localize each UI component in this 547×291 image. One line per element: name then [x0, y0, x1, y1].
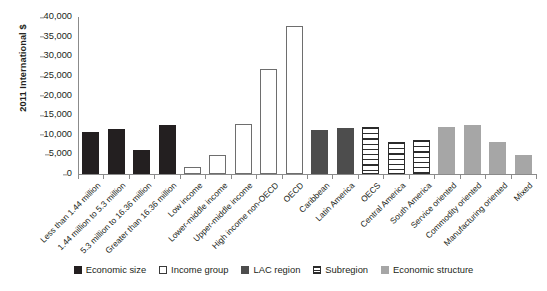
x-axis-tick-mark — [511, 175, 512, 179]
bar-slot — [231, 17, 256, 174]
bar[interactable] — [108, 129, 125, 174]
legend-label: Economic size — [86, 264, 146, 275]
y-axis-tick-label: 35,000 — [44, 32, 78, 41]
legend-label: Economic structure — [393, 264, 473, 275]
y-axis-tick-mark — [40, 56, 44, 57]
bar-slot — [409, 17, 434, 174]
legend-label: Subregion — [325, 264, 368, 275]
bar[interactable] — [235, 124, 252, 174]
bar[interactable] — [362, 127, 379, 174]
bar-slot — [129, 17, 154, 174]
legend-swatch-icon — [74, 266, 82, 274]
legend-item[interactable]: Economic structure — [381, 264, 473, 275]
bar-slot — [434, 17, 459, 174]
y-axis-tick-mark — [40, 115, 44, 116]
x-axis-tick-mark — [180, 175, 181, 179]
bar-slot — [154, 17, 179, 174]
bar-slot — [460, 17, 485, 174]
x-axis-tick-mark — [231, 175, 232, 179]
bar-slot — [307, 17, 332, 174]
y-axis-title: 2011 International $ — [18, 0, 28, 138]
x-axis-tick-mark — [358, 175, 359, 179]
x-axis-tick-mark — [409, 175, 410, 179]
legend-item[interactable]: LAC region — [241, 264, 300, 275]
x-axis-tick-mark — [383, 175, 384, 179]
bar-slot — [485, 17, 510, 174]
legend-item[interactable]: Economic size — [74, 264, 146, 275]
legend-item[interactable]: Income group — [159, 264, 228, 275]
y-axis-tick-label: 0 — [67, 169, 78, 178]
legend-swatch-icon — [241, 266, 249, 274]
chart-legend: Economic sizeIncome groupLAC regionSubre… — [0, 264, 547, 275]
bar-slot — [511, 17, 536, 174]
bar[interactable] — [260, 69, 277, 174]
bar[interactable] — [82, 132, 99, 174]
bar-slot — [180, 17, 205, 174]
legend-swatch-icon — [381, 266, 389, 274]
x-axis-tick-mark — [154, 175, 155, 179]
bar[interactable] — [489, 142, 506, 174]
bar[interactable] — [438, 127, 455, 174]
y-axis-tick-label: 25,000 — [44, 71, 78, 80]
bar[interactable] — [159, 125, 176, 174]
x-axis-tick-mark — [536, 175, 537, 179]
y-axis-tick-mark — [40, 37, 44, 38]
bar-slot — [78, 17, 103, 174]
bar-slot — [332, 17, 357, 174]
legend-item[interactable]: Subregion — [313, 264, 368, 275]
y-axis-tick-mark — [40, 135, 44, 136]
bar[interactable] — [184, 167, 201, 174]
bar-slot — [103, 17, 128, 174]
bar-slot — [358, 17, 383, 174]
bar[interactable] — [311, 130, 328, 174]
x-axis-tick-mark — [205, 175, 206, 179]
x-axis-tick-mark — [103, 175, 104, 179]
plot-area: 40,00035,00030,00025,00020,00015,00010,0… — [78, 17, 536, 174]
y-axis-tick-label: 20,000 — [44, 91, 78, 100]
x-axis-tick-mark — [460, 175, 461, 179]
y-axis-tick-mark — [40, 17, 44, 18]
bar[interactable] — [209, 155, 226, 174]
legend-label: LAC region — [253, 264, 300, 275]
y-axis-tick-mark — [45, 154, 49, 155]
bar-chart: 2011 International $ 40,00035,00030,0002… — [0, 0, 547, 291]
bar[interactable] — [515, 155, 532, 174]
y-axis-tick-mark — [40, 76, 44, 77]
x-axis-tick-mark — [282, 175, 283, 179]
y-axis-tick-label: 30,000 — [44, 52, 78, 61]
x-axis-tick-mark — [256, 175, 257, 179]
bar[interactable] — [337, 128, 354, 174]
x-axis-tick-mark — [434, 175, 435, 179]
x-axis-tick-mark — [129, 175, 130, 179]
x-axis-tick-label: Mixed — [512, 181, 534, 203]
x-axis-tick-mark — [307, 175, 308, 179]
y-axis-tick-label: 15,000 — [44, 110, 78, 119]
y-axis-tick-label: 5,000 — [49, 150, 78, 159]
x-axis-tick-mark — [78, 175, 79, 179]
x-axis-tick-mark — [485, 175, 486, 179]
legend-label: Income group — [171, 264, 228, 275]
x-axis-tick-label: OECD — [282, 181, 305, 204]
x-axis-tick-label: OECS — [359, 181, 382, 204]
bar-slot — [383, 17, 408, 174]
bar[interactable] — [464, 125, 481, 174]
y-axis-tick-mark — [40, 95, 44, 96]
y-axis-tick-mark — [63, 174, 67, 175]
bar-slot — [256, 17, 281, 174]
bar[interactable] — [413, 140, 430, 174]
x-axis-tick-mark — [332, 175, 333, 179]
y-axis-tick-label: 10,000 — [44, 130, 78, 139]
legend-swatch-icon — [313, 266, 321, 274]
bar[interactable] — [286, 26, 303, 174]
y-axis-tick-label: 40,000 — [44, 12, 78, 21]
bar-slot — [205, 17, 230, 174]
legend-swatch-icon — [159, 266, 167, 274]
bar[interactable] — [133, 150, 150, 174]
bar-slot — [282, 17, 307, 174]
bar[interactable] — [388, 142, 405, 174]
